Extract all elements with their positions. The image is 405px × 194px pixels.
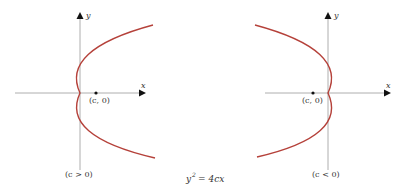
y-axis-label: y [333, 11, 339, 20]
x-axis-arrow-icon [384, 90, 391, 97]
parabola-diagram: y x (c, 0) (c > 0) y 2 = 4cx y x (c, 0) … [0, 0, 405, 194]
left-panel: y x (c, 0) (c > 0) [15, 11, 155, 179]
x-axis-label: x [141, 81, 146, 90]
y-axis-arrow-icon [77, 12, 84, 19]
x-axis-label: x [386, 81, 391, 90]
y-axis-arrow-icon [325, 12, 332, 19]
equation-lhs: y [185, 174, 192, 184]
parabola-curve [76, 25, 155, 158]
equation: y 2 = 4cx [185, 171, 224, 184]
equation-rhs: = 4cx [198, 174, 224, 184]
right-panel: y x (c, 0) (c < 0) [255, 11, 391, 179]
x-axis-arrow-icon [139, 90, 146, 97]
y-axis-label: y [85, 11, 91, 20]
condition-label: (c < 0) [312, 170, 340, 179]
focus-point [311, 91, 314, 94]
focus-label: (c, 0) [302, 96, 323, 105]
focus-point [94, 91, 97, 94]
equation-exponent: 2 [191, 171, 196, 178]
focus-label: (c, 0) [89, 96, 110, 105]
condition-label: (c > 0) [65, 170, 93, 179]
parabola-curve [255, 25, 332, 157]
